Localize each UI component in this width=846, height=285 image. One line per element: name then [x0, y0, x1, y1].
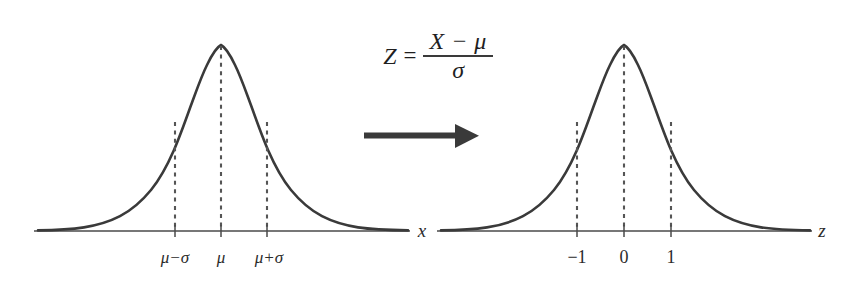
arrow-head	[455, 124, 479, 148]
transformation-arrow	[364, 124, 479, 148]
z-score-formula: Z = X − μ σ	[348, 18, 528, 94]
right-axis-label-z: z	[817, 220, 826, 241]
formula-fraction: X − μ σ	[423, 29, 492, 82]
left-tick-label-mu: μ	[216, 248, 226, 267]
normal-distribution-figure: μ−σ μ μ+σ x −1 0	[0, 0, 846, 285]
formula-numerator: X − μ	[423, 29, 492, 55]
right-tick-label-plus-one: 1	[667, 247, 676, 267]
formula-denominator: σ	[446, 57, 470, 83]
arrow-shaft	[364, 133, 462, 139]
formula-lhs-z: Z	[383, 43, 396, 70]
left-axis-label-x: x	[417, 220, 427, 241]
right-tick-label-minus-one: −1	[567, 247, 586, 267]
left-tick-label-mu-minus-sigma: μ−σ	[160, 248, 190, 267]
left-tick-label-mu-plus-sigma: μ+σ	[254, 248, 284, 267]
right-tick-label-zero: 0	[620, 247, 629, 267]
formula-equals-sign: =	[403, 43, 416, 69]
